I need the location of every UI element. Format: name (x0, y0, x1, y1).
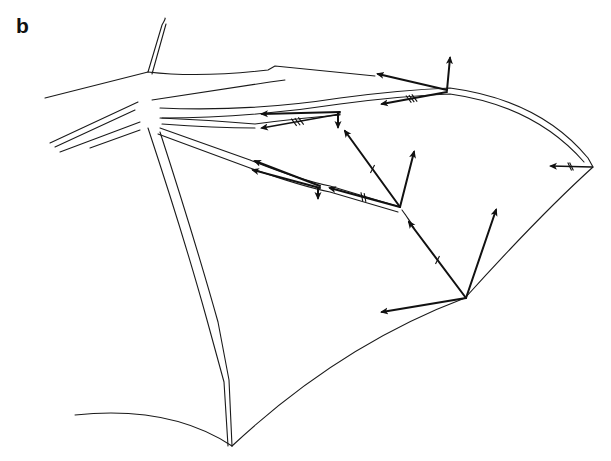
bone-digit5-lower (158, 134, 398, 212)
bone-body-left (90, 130, 140, 148)
wing-skeleton (55, 18, 593, 446)
membrane-edge-trailing-edge-mid (232, 298, 465, 446)
force-vector-arrow (551, 162, 592, 170)
force-vector-arrow (409, 222, 466, 298)
membrane-edge-propatagium-edge (45, 72, 148, 98)
wing-membrane (45, 72, 593, 446)
membrane-edge-trailing-edge-proximal (75, 413, 232, 446)
bone-leg-outer (160, 132, 232, 446)
force-vector-arrow (466, 210, 496, 298)
bone-thumb (148, 18, 165, 72)
force-vector-arrow (378, 74, 447, 90)
membrane-edge-trailing-edge-distal (465, 167, 593, 298)
bone-thumb-2 (152, 24, 166, 74)
bone-forearm-upper (148, 66, 375, 76)
force-vector-arrow (262, 114, 340, 128)
force-vector-arrow (400, 152, 414, 207)
bone-digit4-lower (162, 124, 255, 128)
bone-forearm-lower (152, 80, 285, 100)
force-vector-arrow (382, 298, 466, 312)
bat-wing-diagram (0, 0, 611, 461)
force-vector-arrow (345, 131, 400, 207)
force-vector-arrow (447, 58, 450, 90)
bone-leg-inner (148, 128, 228, 446)
membrane-edge-inner-membrane-line (50, 102, 138, 143)
force-vectors (253, 58, 592, 312)
